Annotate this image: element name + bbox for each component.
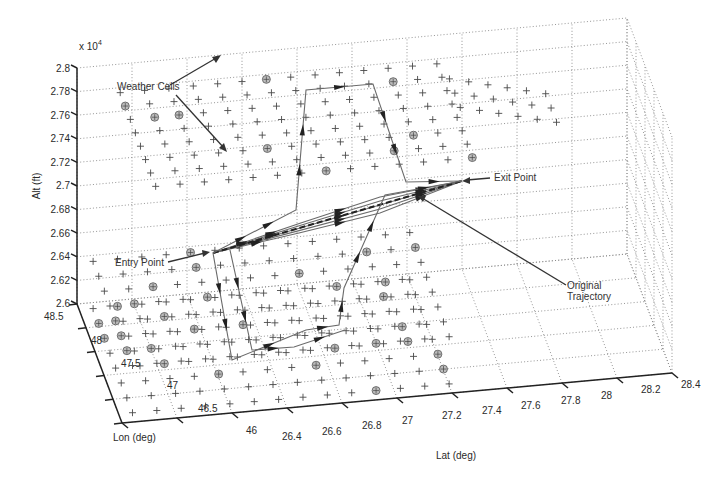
lon-tick <box>87 352 95 353</box>
trajectories <box>213 84 462 360</box>
exit-point-label: Exit Point <box>494 172 536 183</box>
floor-grid-line <box>104 325 654 375</box>
z-tick <box>71 207 77 210</box>
back-wall-grid-line <box>77 230 627 280</box>
lat-tick-labels: 26.4 26.6 26.8 27 27.2 27.4 27.6 27.8 28… <box>282 379 701 442</box>
z-multiplier-exponent: 4 <box>98 39 102 46</box>
side-wall-grid-line <box>627 207 672 326</box>
exit-point-arrow <box>467 178 490 180</box>
3d-trajectory-plot: 2.8 2.78 2.76 2.74 2.72 2.7 2.68 2.66 2.… <box>0 0 728 485</box>
entry-point-label: Entry Point <box>115 257 164 268</box>
z-tick-label: 2.76 <box>51 110 71 121</box>
lat-tick-label: 27.8 <box>561 395 581 406</box>
axes <box>77 68 672 423</box>
z-tick-label: 2.6 <box>56 298 70 309</box>
original-trajectory-arrow <box>422 198 566 285</box>
floor-grid-line <box>627 254 672 373</box>
z-tick <box>71 159 77 162</box>
z-multiplier: x 10 4 <box>79 39 102 52</box>
arrowhead-icon <box>212 55 221 63</box>
lon-tick-label: 48.5 <box>44 311 64 322</box>
z-tick <box>71 183 77 186</box>
trajectory-arrowhead-icon <box>353 252 360 263</box>
lat-tick-label: 28 <box>601 390 613 401</box>
lon-tick-label: 46.5 <box>198 403 218 414</box>
axis-ticks <box>69 65 678 428</box>
z-tick <box>71 112 77 115</box>
lat-axis-label: Lat (deg) <box>436 450 476 461</box>
z-axis-label: Alt (ft) <box>31 173 42 200</box>
side-wall-grid-line <box>627 42 672 161</box>
lat-tick-label: 27.4 <box>482 405 502 416</box>
trajectory-arrowhead-icon <box>380 111 386 123</box>
entry-point-arrow <box>168 253 205 262</box>
z-tick-label: 2.72 <box>51 157 71 168</box>
trajectory-arrowhead-icon <box>262 222 273 230</box>
z-tick-label: 2.68 <box>51 204 71 215</box>
lon-tick-label: 46 <box>246 425 258 436</box>
weather-cells-arrow-1 <box>170 57 218 85</box>
side-wall-grid-line <box>627 136 672 255</box>
lat-tick-label: 27 <box>402 415 414 426</box>
lat-tick-label: 26.6 <box>322 426 342 437</box>
lat-tick <box>122 423 128 428</box>
side-wall-grid-line <box>627 89 672 208</box>
lon-tick <box>78 328 86 329</box>
original-trajectory-label-1: Original <box>567 280 601 291</box>
side-wall-grid-line <box>627 65 672 184</box>
z-tick-label: 2.62 <box>51 275 71 286</box>
floor-grid-line <box>572 259 617 378</box>
trajectory-arrowhead-icon <box>314 337 326 343</box>
original-trajectory-line <box>213 181 462 253</box>
lat-tick <box>397 398 403 403</box>
floor-grid-line <box>462 269 507 388</box>
lon-tick-labels: 48.5 48 47.5 47 46.5 46 <box>44 311 258 436</box>
side-wall-grid-line <box>627 18 672 137</box>
lon-tick <box>105 399 113 400</box>
side-wall-grid-line <box>627 254 672 373</box>
side-wall-grid-line <box>627 230 672 349</box>
trajectory-path <box>230 250 345 350</box>
trajectory-arrowhead-icon <box>334 221 346 226</box>
lon-tick-label: 47.5 <box>121 358 141 369</box>
back-wall-grid-line <box>77 112 627 162</box>
z-tick-label: 2.64 <box>51 251 71 262</box>
lon-axis-label: Lon (deg) <box>113 432 156 443</box>
lat-tick <box>342 403 348 408</box>
trajectory-path <box>213 181 462 360</box>
z-tick-label: 2.78 <box>51 86 71 97</box>
z-tick-label: 2.7 <box>56 180 70 191</box>
lat-tick <box>617 378 623 383</box>
back-wall-grid-line <box>77 183 627 233</box>
trajectory-arrowhead-icon <box>216 283 221 295</box>
lat-tick <box>672 373 678 378</box>
trajectory-path <box>213 84 462 253</box>
trajectory-arrowhead-icon <box>367 221 374 232</box>
lon-tick-label: 47 <box>167 380 179 391</box>
floor-grid-line <box>517 264 562 383</box>
back-wall-grid-line <box>77 136 627 186</box>
side-wall-grid-line <box>627 183 672 302</box>
weather-cells-label: Weather Cells <box>117 81 180 92</box>
lat-tick <box>452 393 458 398</box>
z-tick-label: 2.8 <box>56 63 70 74</box>
z-tick <box>71 254 77 257</box>
lat-tick <box>507 388 513 393</box>
weather-cells-arrow-2 <box>176 95 224 148</box>
lat-tick-label: 26.8 <box>362 420 382 431</box>
trajectory-arrowhead-icon <box>317 326 329 331</box>
lat-tick-label: 28.4 <box>681 379 701 390</box>
z-tick <box>71 65 77 68</box>
z-multiplier-text: x 10 <box>79 41 98 52</box>
trajectory-arrowhead-icon <box>429 179 440 184</box>
lat-tick-label: 26.4 <box>282 431 302 442</box>
z-tick-label: 2.66 <box>51 228 71 239</box>
annotations: Weather Cells Entry Point Exit Point Ori… <box>115 55 611 302</box>
side-wall-grid-line <box>627 160 672 279</box>
lon-tick <box>69 304 77 305</box>
lon-tick-label: 48 <box>91 335 103 346</box>
z-tick <box>71 230 77 233</box>
lat-tick-label: 28.2 <box>641 384 661 395</box>
z-tick <box>71 277 77 280</box>
z-tick <box>71 89 77 92</box>
